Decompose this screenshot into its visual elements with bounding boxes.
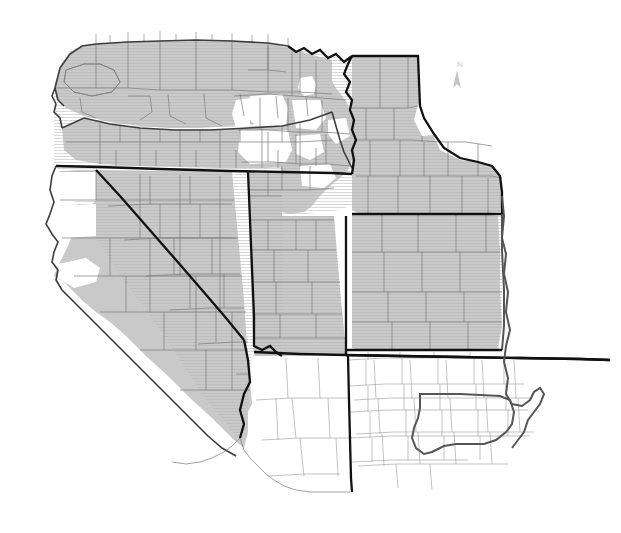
western-us-county-map: N xyxy=(0,0,621,533)
white-county-id-c1 xyxy=(238,130,292,164)
map-canvas: N xyxy=(0,0,621,533)
state-wyoming xyxy=(352,214,502,350)
north-arrow-label: N xyxy=(457,60,463,69)
white-county-id-n1 xyxy=(248,94,288,128)
white-county-ca-n2 xyxy=(58,204,96,238)
white-county-wy-e1 xyxy=(502,214,522,240)
white-county-ca-n1 xyxy=(60,172,96,202)
white-county-mt-e1 xyxy=(502,186,520,214)
